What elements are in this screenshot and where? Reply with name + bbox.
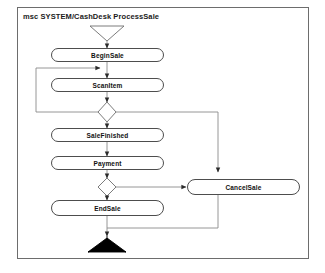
node-endsale-label: EndSale	[94, 205, 121, 212]
node-scanitem-label: ScanItem	[92, 82, 122, 89]
node-beginsale-label: BeginSale	[91, 52, 124, 59]
node-payment[interactable]: Payment	[51, 156, 164, 170]
node-payment-label: Payment	[93, 160, 121, 167]
decision-node-2[interactable]	[98, 178, 116, 196]
diagram-title: msc SYSTEM/CashDesk ProcessSale	[23, 11, 159, 22]
start-node[interactable]	[90, 26, 124, 41]
node-cancelsale-label: CancelSale	[225, 184, 261, 191]
node-salefinished[interactable]: SaleFinished	[51, 128, 164, 142]
node-salefinished-label: SaleFinished	[87, 132, 129, 139]
node-scanitem[interactable]: ScanItem	[51, 78, 164, 92]
end-node[interactable]	[88, 238, 126, 253]
decision-node-1[interactable]	[98, 103, 116, 121]
node-endsale[interactable]: EndSale	[51, 200, 164, 216]
node-beginsale[interactable]: BeginSale	[51, 48, 164, 62]
node-cancelsale[interactable]: CancelSale	[187, 179, 300, 195]
diagram-canvas: msc SYSTEM/CashDesk ProcessSale	[0, 0, 325, 273]
